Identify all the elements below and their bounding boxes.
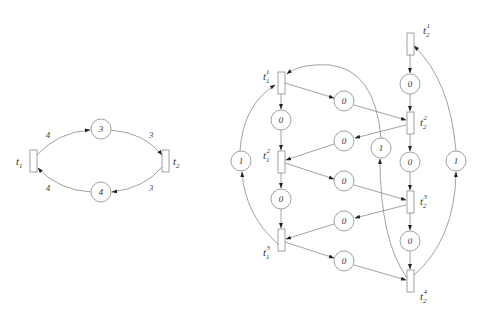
place-m1-tokens: 0 (342, 96, 347, 106)
arc-pm5-t24 (354, 265, 406, 280)
weight-ptop-t2: 3 (148, 130, 154, 140)
place-center-resource-tokens: 1 (379, 143, 384, 153)
weight-t2-pbottom: 3 (148, 183, 154, 193)
label-t1-2: t12 (263, 147, 271, 164)
transition-t2 (162, 150, 169, 172)
transition-t2-2 (407, 112, 414, 134)
arc-t12-pm3 (285, 163, 334, 179)
arc-t11-pm1 (285, 83, 334, 98)
place-right-resource-tokens: 1 (454, 156, 459, 166)
place-m3-tokens: 0 (342, 176, 347, 186)
label-t1-1: t11 (263, 68, 270, 85)
right-net: 0 0 0 0 0 0 0 0 0 0 1 1 1 t11 t12 t13 t2… (231, 22, 466, 305)
arc-t24-pr (413, 172, 456, 276)
arc-pm1-t22 (354, 105, 406, 120)
arc-t13-pl (242, 172, 278, 244)
transition-t1-2 (278, 151, 285, 173)
place-m2-tokens: 0 (342, 136, 347, 146)
label-t1: t1 (16, 155, 23, 170)
arc-pm2-t12 (286, 144, 334, 160)
arc-pm4-t13 (286, 224, 334, 239)
place-a2-tokens: 0 (279, 194, 284, 204)
arc-t13-pm5 (285, 242, 334, 258)
place-left-resource-tokens: 1 (239, 156, 244, 166)
arc-t24-pc (380, 159, 407, 278)
weight-t1-ptop: 4 (46, 130, 51, 140)
transition-t2-1 (407, 33, 414, 55)
arc-pl-t11 (240, 85, 275, 151)
transition-t2-4 (407, 270, 414, 292)
label-t2-2: t22 (420, 114, 428, 131)
label-t2-1: t21 (423, 22, 430, 39)
arc-pm3-t23 (354, 185, 406, 200)
arc-t23-pm4 (355, 205, 406, 218)
place-b2-tokens: 0 (408, 157, 413, 167)
place-b3-tokens: 0 (408, 236, 413, 246)
label-t2-3: t23 (420, 193, 428, 210)
transition-t1-3 (278, 229, 285, 251)
place-bottom-tokens: 4 (99, 187, 104, 197)
weight-pbottom-t1: 4 (46, 183, 51, 193)
arc-t2-pbottom (112, 167, 162, 192)
label-t1-3: t13 (263, 244, 271, 261)
transition-t1-1 (278, 72, 285, 94)
place-top-tokens: 3 (98, 124, 104, 134)
place-a1-tokens: 0 (279, 115, 284, 125)
arc-ptop-t2 (111, 130, 162, 155)
label-t2-4: t24 (420, 288, 428, 305)
place-b1-tokens: 0 (408, 79, 413, 89)
transition-t2-3 (407, 191, 414, 213)
place-m5-tokens: 0 (342, 256, 347, 266)
left-net: 3 4 4 3 3 4 t1 t2 (16, 119, 180, 202)
place-m4-tokens: 0 (342, 216, 347, 226)
petri-net-diagram: 3 4 4 3 3 4 t1 t2 (0, 0, 485, 310)
transition-t1 (30, 150, 37, 172)
label-t2: t2 (173, 155, 180, 170)
arc-pr-t21 (414, 46, 456, 151)
